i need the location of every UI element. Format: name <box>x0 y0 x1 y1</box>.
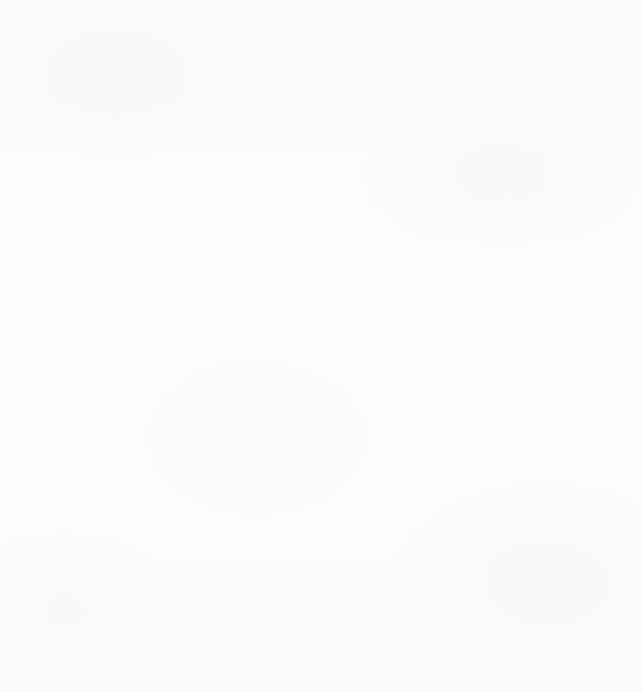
divisor-value: 24 <box>284 341 321 373</box>
quotient-row: 12 R20 <box>284 313 389 341</box>
worksheet-canvas: 12 R20 24 308 <box>0 0 642 692</box>
connector-top-left-to-center <box>218 170 345 317</box>
dividend-value: 308 <box>333 341 389 375</box>
long-division-problem: 12 R20 24 308 <box>284 313 389 375</box>
connector-bottom-right-to-center <box>342 378 442 519</box>
dividend-wrap: 308 <box>333 341 389 375</box>
bubble-bottom-left-input-area[interactable] <box>12 508 298 668</box>
bubble-top-right-input-area[interactable] <box>355 22 637 180</box>
dividend-row: 24 308 <box>284 341 389 375</box>
bubble-top-left-input-area[interactable] <box>22 14 310 172</box>
quotient-value: 12 R20 <box>286 313 387 341</box>
bubble-bottom-right-input-area[interactable] <box>344 515 628 677</box>
vinculum-bar <box>331 341 393 344</box>
